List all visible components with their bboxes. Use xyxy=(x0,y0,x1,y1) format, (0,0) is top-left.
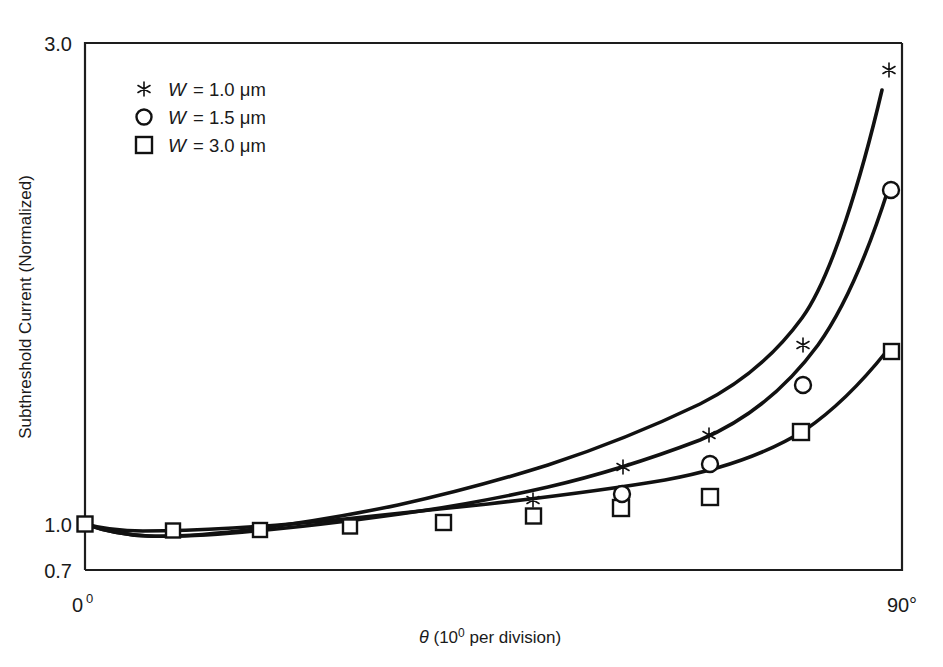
x-tick-label-right: 90° xyxy=(887,594,917,616)
y-tick-label-top: 3.0 xyxy=(44,33,72,55)
x-axis-title-open: (10 xyxy=(429,628,458,647)
legend-eq-star: = 1.0 μm xyxy=(193,79,266,100)
data-point-square xyxy=(436,515,451,530)
y-axis-title: Subthreshold Current (Normalized) xyxy=(16,175,35,439)
chart-figure: 3.0 1.0 0.7 0 0 90° Subthreshold Current… xyxy=(0,0,943,667)
svg-text:θ (100 per division): θ (100 per division) xyxy=(419,626,561,647)
y-tick-label-bottom: 0.7 xyxy=(44,560,72,582)
plot-background xyxy=(0,0,943,667)
data-point-square xyxy=(702,489,718,505)
legend-marker-square xyxy=(136,137,152,153)
legend-label-square: W= 3.0 μm xyxy=(168,135,266,156)
legend-label-circle: W= 1.5 μm xyxy=(168,107,266,128)
data-point-circle xyxy=(702,456,718,472)
data-point-circle xyxy=(883,182,899,198)
x-tick-label-left-degree: 0 xyxy=(86,591,93,606)
legend-var-circle: W xyxy=(168,107,188,128)
x-axis-title-close: per division) xyxy=(465,628,561,647)
x-axis-title-theta: θ xyxy=(419,627,429,647)
legend-label-star: W= 1.0 μm xyxy=(168,79,266,100)
y-tick-label-mid: 1.0 xyxy=(44,514,72,536)
legend-var-square: W xyxy=(168,135,188,156)
subthreshold-current-plot: 3.0 1.0 0.7 0 0 90° Subthreshold Current… xyxy=(0,0,943,667)
legend-eq-square: = 3.0 μm xyxy=(193,135,266,156)
x-tick-label-left-value: 0 xyxy=(72,594,83,616)
data-point-square xyxy=(78,517,93,532)
legend-eq-circle: = 1.5 μm xyxy=(193,107,266,128)
data-point-circle xyxy=(614,486,630,502)
legend-marker-circle xyxy=(137,110,152,125)
data-point-square xyxy=(253,523,267,537)
data-point-square xyxy=(793,424,809,440)
data-point-square xyxy=(526,509,541,524)
legend-var-star: W xyxy=(168,79,188,100)
data-point-square xyxy=(166,524,180,538)
data-point-square xyxy=(343,520,357,534)
data-point-square xyxy=(884,344,899,359)
x-axis-title: θ (100 per division) xyxy=(419,626,561,647)
data-point-circle xyxy=(795,377,811,393)
